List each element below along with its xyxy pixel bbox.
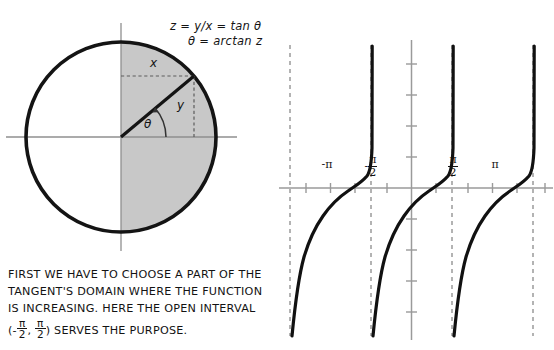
interval-comma: , <box>27 324 31 337</box>
label-y: y <box>177 98 184 112</box>
tick-label-neg-pi: -π <box>312 158 342 171</box>
tick-label-neg-pi-over-2: -π2 <box>352 154 390 178</box>
interval-close-and-text: ) SERVES THE PURPOSE. <box>46 324 188 337</box>
label-x: x <box>150 56 157 70</box>
fraction-numerator: π <box>448 154 457 167</box>
caption-line-3: IS INCREASING. HERE THE OPEN INTERVAL <box>8 300 276 317</box>
tangent-branch-center <box>373 46 453 336</box>
formula-block: z = y/x = tan θ θ = arctan z <box>168 19 288 49</box>
tangent-branch-left <box>292 46 372 336</box>
interval-open-paren: (- <box>8 324 17 337</box>
fraction-neg-pi-over-2: π2 <box>368 154 377 178</box>
unit-circle-group <box>6 23 237 251</box>
tangent-plot-group <box>279 40 553 340</box>
tick-label-pi-over-2: π2 <box>438 154 468 178</box>
fraction-numerator: π <box>368 154 377 167</box>
formula-arctangent-definition: θ = arctan z <box>168 34 288 49</box>
fraction-pi-over-2: π2 <box>448 154 457 178</box>
tangent-branch-right <box>454 46 534 336</box>
caption-block: FIRST WE HAVE TO CHOOSE A PART OF THE TA… <box>8 266 276 340</box>
fraction-denominator: 2 <box>17 329 28 340</box>
caption-line-1: FIRST WE HAVE TO CHOOSE A PART OF THE <box>8 266 276 283</box>
illustration-page: x y θ z = y/x = tan θ θ = arctan z -π -π… <box>0 0 554 350</box>
figure-panel: x y θ z = y/x = tan θ θ = arctan z -π -π… <box>0 0 554 350</box>
fraction-denominator: 2 <box>368 167 377 179</box>
caption-line-4: (-π2, π2) SERVES THE PURPOSE. <box>8 318 276 340</box>
interval-upper-bound-fraction: π2 <box>35 318 46 340</box>
tick-label-pi: π <box>484 158 506 171</box>
fraction-denominator: 2 <box>35 329 46 340</box>
label-theta: θ <box>144 117 151 131</box>
formula-tangent-definition: z = y/x = tan θ <box>168 19 288 34</box>
interval-lower-bound-fraction: π2 <box>17 318 28 340</box>
caption-line-2: TANGENT'S DOMAIN WHERE THE FUNCTION <box>8 283 276 300</box>
fraction-denominator: 2 <box>448 167 457 179</box>
